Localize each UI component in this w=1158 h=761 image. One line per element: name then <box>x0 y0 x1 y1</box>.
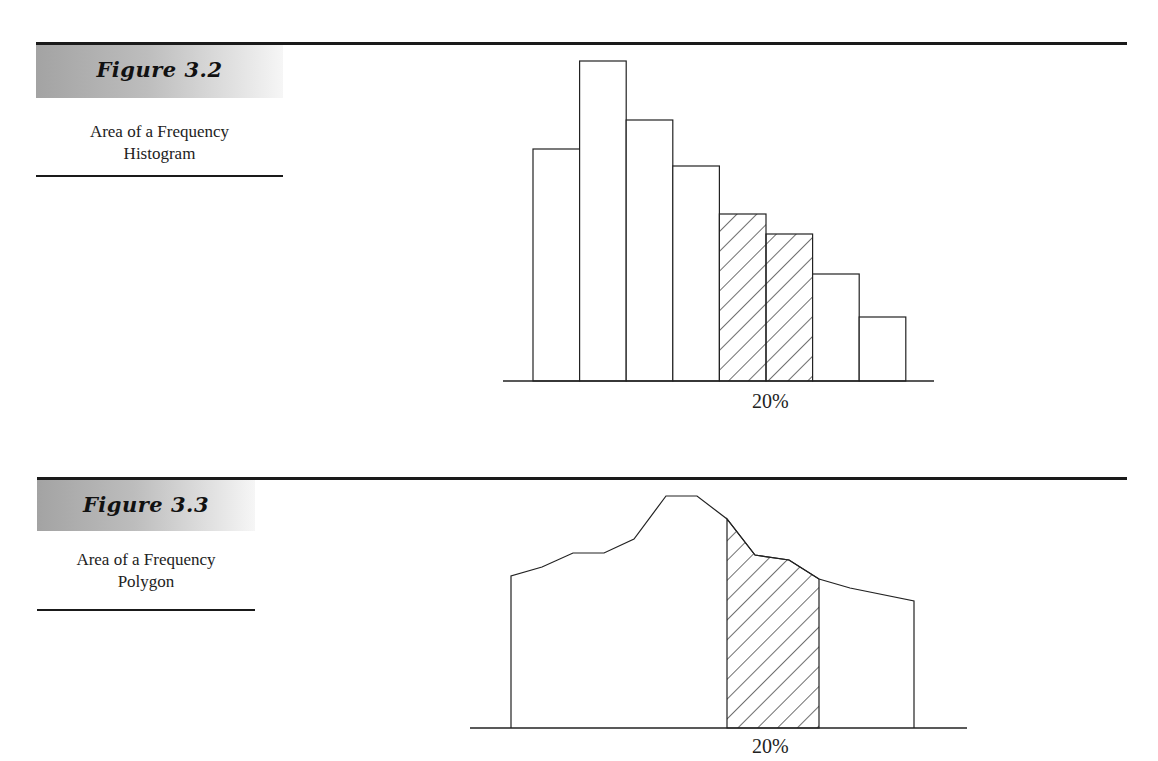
frequency-polygon-chart <box>470 496 967 728</box>
shaded-bar <box>719 214 766 381</box>
polygon-shaded-label: 20% <box>752 735 789 758</box>
histogram-bar <box>813 274 860 381</box>
histogram-chart <box>503 61 934 381</box>
charts-canvas <box>0 0 1158 761</box>
shaded-region <box>727 519 819 728</box>
histogram-bar <box>533 149 580 381</box>
histogram-bar <box>626 120 673 381</box>
shaded-bar <box>766 234 813 381</box>
polygon-outline <box>511 496 914 728</box>
histogram-bar <box>673 166 720 381</box>
histogram-bar <box>580 61 627 381</box>
histogram-shaded-label: 20% <box>752 390 789 413</box>
histogram-bar <box>859 317 906 381</box>
